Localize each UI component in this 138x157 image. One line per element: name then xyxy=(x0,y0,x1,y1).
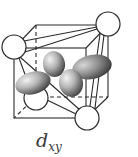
ligand-bottom-right xyxy=(75,106,99,130)
orbital-lobes xyxy=(13,49,114,99)
orbital-label-main: d xyxy=(36,129,48,151)
orbital-label-subscript: xy xyxy=(48,140,62,154)
ligand-top-left xyxy=(2,35,26,59)
ligand-top-right xyxy=(96,12,120,36)
orbital-label: dxy xyxy=(36,131,62,153)
dxy-orbital-diagram xyxy=(0,0,138,157)
